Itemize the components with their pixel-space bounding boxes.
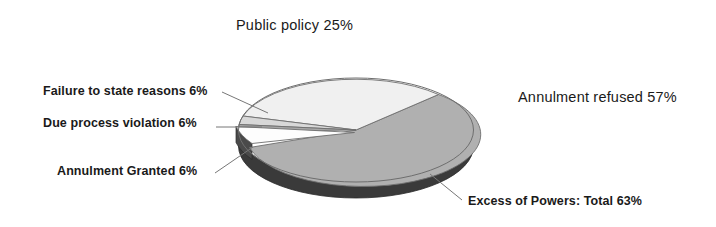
- slice-label-excess-of-powers: Excess of Powers: Total 63%: [468, 195, 642, 209]
- chart-title: Public policy 25%: [236, 18, 353, 34]
- slice-label-failure-to-state-reasons: Failure to state reasons 6%: [43, 85, 208, 99]
- slice-label-annulment-refused: Annulment refused 57%: [518, 90, 677, 106]
- chart-canvas: Public policy 25% Annulment refused 57% …: [0, 0, 716, 227]
- pie-chart-graphic: [0, 0, 716, 227]
- slice-label-annulment-granted: Annulment Granted 6%: [57, 165, 197, 179]
- slice-label-due-process-violation: Due process violation 6%: [43, 117, 197, 131]
